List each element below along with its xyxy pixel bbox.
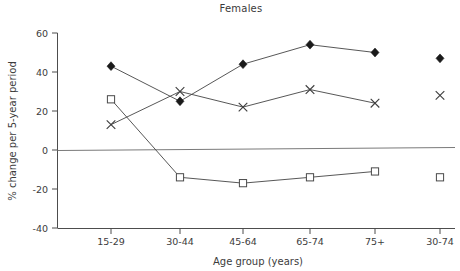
y-tick-label-40: 40 [36,67,48,78]
data-point-square [371,168,378,175]
y-tick-label-60: 60 [36,28,48,39]
y-tick-label-minus40: -40 [32,223,48,234]
series-markers-group [107,40,445,186]
data-point-diamond [436,54,444,63]
data-point-cross [371,99,380,108]
data-point-diamond [306,40,314,49]
zero-reference-line [58,148,456,151]
chart-figure: Females 60 40 20 0 -20 -40 % change per … [0,0,460,271]
series-line-diamond-series [111,45,375,102]
data-point-square [239,180,246,187]
data-point-cross [107,120,116,129]
data-point-diamond [107,62,115,71]
y-tick-label-minus20: -20 [32,184,48,195]
x-tick-label-30-74: 30-74 [426,236,454,247]
data-point-cross [176,87,185,96]
x-axis-title: Age group (years) [213,256,303,267]
data-point-diamond [176,97,184,106]
data-point-square [436,174,443,181]
x-tick-label-45-64: 45-64 [229,236,257,247]
data-point-square [107,96,114,103]
data-point-square [306,174,313,181]
y-tick-label-0: 0 [42,145,48,156]
data-point-cross [306,85,315,94]
y-axis-title: % change per 5-year period [7,61,18,201]
data-point-diamond [239,60,247,69]
x-tick-label-75plus: 75+ [365,236,385,247]
y-tick-label-20: 20 [36,106,48,117]
data-point-cross [239,103,248,112]
x-tick-label-65-74: 65-74 [296,236,324,247]
series-line-square-series [111,99,375,183]
chart-plot-area: 60 40 20 0 -20 -40 % change per 5-year p… [0,0,460,271]
data-point-diamond [371,48,379,57]
data-point-square [176,174,183,181]
x-tick-label-15-29: 15-29 [97,236,125,247]
y-tick-marks [52,33,58,228]
x-tick-label-30-44: 30-44 [166,236,194,247]
data-point-cross [436,91,445,100]
